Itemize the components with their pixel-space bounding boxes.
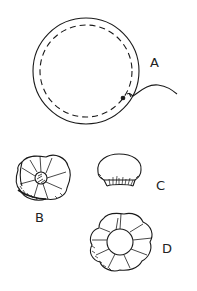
label-b: B (35, 210, 44, 225)
step-b-gathered-yoyo (16, 155, 70, 200)
step-d-finished-yoyo (90, 213, 152, 271)
yoyo-diagram: A B C D (0, 0, 197, 291)
label-c: C (156, 178, 165, 193)
label-d: D (162, 241, 172, 256)
label-a: A (150, 55, 159, 70)
step-a-fabric-circle (33, 18, 177, 124)
step-c-side-view (98, 154, 141, 186)
